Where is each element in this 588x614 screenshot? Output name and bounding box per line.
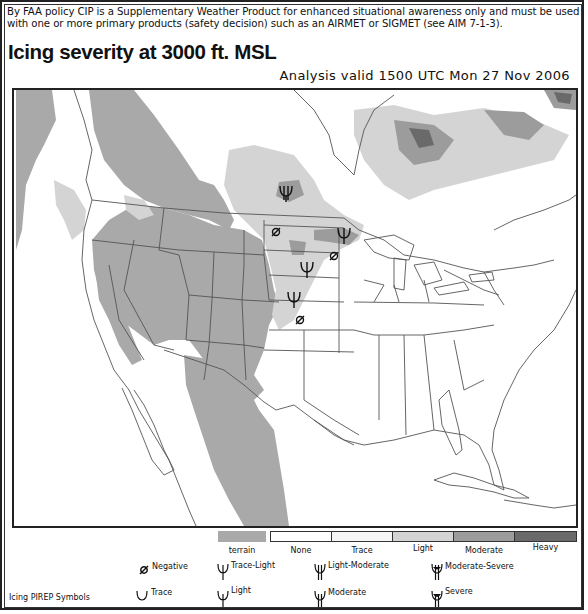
legend-label-moderate: Moderate xyxy=(453,546,515,555)
light-moderate-icon xyxy=(313,563,327,581)
legend-label-trace: Trace xyxy=(331,546,393,555)
icing-map xyxy=(12,88,578,528)
legend-pirep-moderate-severe: Moderate-Severe xyxy=(445,562,514,571)
pirep-negative-symbol xyxy=(296,316,304,324)
legend-swatch-moderate xyxy=(453,531,515,542)
legend-pirep-trace-light: Trace-Light xyxy=(231,561,275,570)
legend-label-none: None xyxy=(270,546,332,555)
moderate-icon xyxy=(313,590,327,608)
legend-pirep-light-moderate: Light-Moderate xyxy=(328,561,389,570)
legend-pirep-moderate: Moderate xyxy=(328,588,366,597)
legend-swatch-trace xyxy=(331,531,393,542)
legend-swatch-heavy xyxy=(514,531,577,542)
analysis-valid-time: Analysis valid 1500 UTC Mon 27 Nov 2006 xyxy=(280,68,571,83)
light-icon xyxy=(216,590,230,608)
severe-icon xyxy=(430,590,444,608)
pirep-negative-symbol xyxy=(330,252,338,260)
legend-swatch-none xyxy=(270,531,332,542)
legend-label-heavy: Heavy xyxy=(514,543,577,552)
legend-swatch-light xyxy=(392,531,454,542)
legend-pirep-trace: Trace xyxy=(151,588,172,597)
legend-pirep-severe: Severe xyxy=(445,587,473,596)
legend-label-light: Light xyxy=(392,544,454,553)
legend-pirep-light: Light xyxy=(231,586,251,595)
negative-icon xyxy=(138,564,150,576)
pirep-legend-title: Icing PIREP Symbols xyxy=(9,593,90,602)
legend-pirep-negative: Negative xyxy=(152,562,188,571)
faa-disclaimer: By FAA policy CIP is a Supplementary Wea… xyxy=(7,6,582,29)
legend-swatch-terrain xyxy=(218,531,266,542)
trace-light-icon xyxy=(216,563,230,581)
trace-icon xyxy=(136,590,148,602)
moderate-severe-icon xyxy=(430,563,444,581)
page-title: Icing severity at 3000 ft. MSL xyxy=(8,40,276,64)
legend-label-terrain: terrain xyxy=(218,546,266,555)
